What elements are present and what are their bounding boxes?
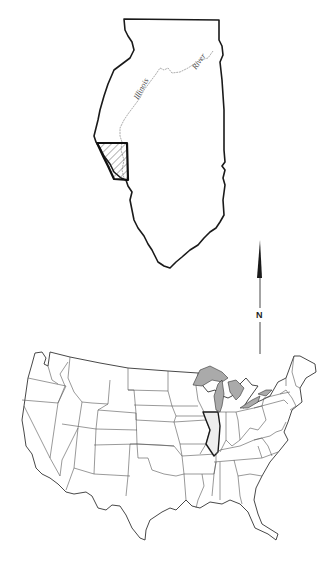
lake-ontario — [258, 390, 272, 396]
map-figure: Illinois River N — [0, 0, 335, 561]
illinois-map: Illinois River — [94, 19, 225, 268]
lake-superior — [193, 366, 228, 386]
north-label: N — [256, 310, 263, 320]
north-arrow: N — [256, 240, 263, 354]
north-arrow-head-icon — [257, 240, 262, 278]
us-map — [22, 352, 316, 540]
study-area-hatched — [97, 143, 128, 180]
